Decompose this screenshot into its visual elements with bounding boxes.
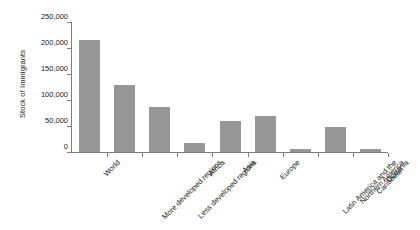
y-axis-tick-label: 250,000 [28, 12, 68, 21]
x-axis-tick-label: Europe [278, 158, 302, 182]
y-axis-tick-label: 0 [28, 142, 68, 151]
x-axis-tick [283, 153, 284, 157]
x-axis-tick [353, 153, 354, 157]
bar [149, 107, 170, 152]
bar-chart: Stock of Immigrants 250,000200,000150,00… [0, 0, 420, 230]
y-axis-tick [67, 152, 71, 153]
bar [114, 85, 135, 152]
x-axis-tick [142, 153, 143, 157]
y-axis-tick-label: 200,000 [28, 38, 68, 47]
y-axis-tick [67, 74, 71, 75]
x-axis-tick [318, 153, 319, 157]
x-axis-tick [177, 153, 178, 157]
x-axis-line [71, 152, 388, 153]
y-axis-tick-label: 100,000 [28, 90, 68, 99]
x-axis-tick-label: World [101, 158, 121, 178]
y-axis-tick [67, 48, 71, 49]
x-axis-tick [248, 153, 249, 157]
x-axis-tick [107, 153, 108, 157]
bar [360, 149, 381, 152]
y-axis-tick [67, 100, 71, 101]
x-axis-tick [212, 153, 213, 157]
x-axis-tick-label: Africa [206, 158, 226, 178]
bar [79, 40, 100, 152]
x-axis-tick [388, 153, 389, 157]
y-axis-tick [67, 126, 71, 127]
y-axis-tick-label: 50,000 [28, 116, 68, 125]
y-axis-tick-label: 150,000 [28, 64, 68, 73]
bar [184, 143, 205, 152]
bar [255, 116, 276, 152]
plot-area [72, 22, 388, 152]
y-axis-tick-labels: 250,000200,000150,000100,00050,0000 [28, 16, 68, 156]
y-axis-tick [67, 22, 71, 23]
bar [220, 121, 241, 152]
bar [325, 127, 346, 152]
bar [290, 149, 311, 152]
